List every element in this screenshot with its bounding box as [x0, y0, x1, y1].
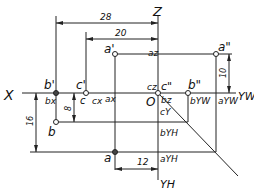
label-ax: ax	[105, 94, 117, 104]
axis-x-label: X	[3, 87, 14, 103]
label-c-v: c'	[76, 78, 86, 92]
label-cy: cY	[160, 107, 172, 117]
label-b-s: b"	[188, 78, 201, 92]
label-b-v: b'	[44, 78, 55, 92]
axis-z-label: Z	[152, 4, 163, 19]
dim-28: 28	[100, 12, 112, 22]
label-a-s: a"	[218, 40, 231, 54]
point-b-h	[54, 120, 59, 125]
label-c-h: c	[80, 95, 86, 106]
label-byw: bYW	[190, 96, 211, 106]
label-cx: cx	[92, 96, 103, 106]
label-byh: bYH	[160, 128, 178, 138]
label-a-v: a'	[104, 42, 115, 56]
dim-8: 8	[64, 106, 73, 111]
dim-20: 20	[115, 28, 127, 38]
label-az: az	[148, 48, 159, 58]
label-b-h: b	[48, 125, 56, 139]
dim-12: 12	[137, 157, 149, 167]
dim-16: 16	[26, 116, 35, 126]
point-a-h	[113, 150, 118, 155]
origin-label: O	[146, 95, 155, 109]
label-bz: bz	[161, 95, 172, 105]
label-a-h: a	[104, 151, 111, 165]
label-bx: bx	[45, 96, 57, 106]
projection-diagram: X Z YW YH O a' a" a b' b" b c' c" c bx c…	[0, 0, 254, 191]
label-cz: cz	[147, 82, 157, 92]
dim-10: 10	[219, 68, 228, 78]
label-c-s: c"	[161, 80, 172, 93]
axis-yh-label: YH	[160, 178, 175, 191]
label-ayh: aYH	[160, 154, 178, 164]
label-ayw: aYW	[218, 96, 239, 106]
axis-yw-label: YW	[238, 90, 254, 103]
